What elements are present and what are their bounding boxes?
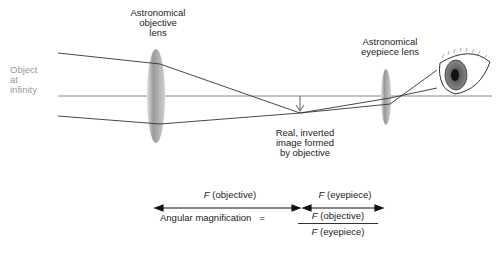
- ray-lower: [58, 88, 437, 124]
- formula-lhs: Angular magnification =: [160, 213, 280, 223]
- focal-objective-arrow: [155, 205, 300, 211]
- eye-icon: [439, 48, 490, 94]
- real-image-label: Real, inverted image formed by objective: [255, 128, 355, 158]
- object-at-infinity-label: Object at infinity: [10, 65, 37, 95]
- ray-upper: [58, 53, 437, 113]
- formula-fraction: F (objective) F (eyepiece): [298, 210, 378, 237]
- eyepiece-lens-label: Astronomical eyepiece lens: [340, 37, 440, 57]
- focal-objective-label: F (objective): [185, 190, 275, 200]
- focal-eyepiece-label: F (eyepiece): [305, 190, 385, 200]
- objective-lens-label: Astronomical objective lens: [118, 8, 198, 38]
- eyepiece-lens: [381, 69, 391, 125]
